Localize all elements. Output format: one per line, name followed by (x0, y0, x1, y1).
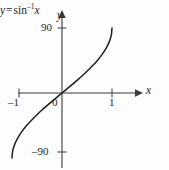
y-tick-label-90: 90 (41, 22, 52, 33)
x-tick-label-1: 1 (109, 97, 115, 108)
x-axis-arrow-icon (135, 89, 143, 96)
plot-canvas (0, 0, 169, 170)
y-axis-label: y (57, 10, 62, 22)
y-tick-label-neg90: –90 (32, 146, 49, 157)
x-axis-label: x (146, 85, 151, 97)
x-tick-label-neg1: –1 (8, 97, 19, 108)
inverse-sine-graph-figure: y x 90 –90 –1 0 1 y=sin–1x (0, 0, 169, 170)
origin-label: 0 (52, 97, 58, 108)
